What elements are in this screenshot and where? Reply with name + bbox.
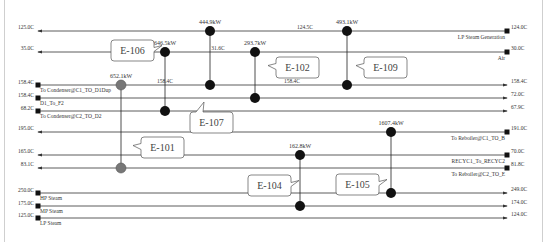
inlet-temp: 158.4C bbox=[18, 92, 34, 98]
outlet-temp: 125.0C bbox=[18, 24, 34, 30]
stream-source-marker bbox=[505, 29, 510, 34]
exchanger-duty: 293.7kW bbox=[244, 40, 267, 46]
exchanger-node-cold[interactable] bbox=[116, 163, 126, 173]
stream-name: RECYC1_To_RECYC2 bbox=[452, 158, 506, 164]
stream-s1[interactable]: 124.0C125.0CLP Steam Generation124.5C bbox=[18, 24, 527, 40]
stream-s11[interactable]: 125.0C124.0CLP Steam bbox=[18, 211, 527, 226]
inlet-temp: 250.0C bbox=[18, 187, 34, 193]
exchanger-node-hot[interactable] bbox=[160, 47, 170, 57]
stream-name: D1_To_F2 bbox=[40, 100, 64, 106]
exchanger-e-101[interactable]: 652.1kW bbox=[110, 73, 133, 173]
callout-e-109[interactable]: E-109 bbox=[356, 57, 407, 78]
exchanger-duty: 646.5kW bbox=[154, 40, 177, 46]
exchanger-node-hot[interactable] bbox=[295, 150, 305, 160]
stream-name: To Condenser@C1_TO_D1Dup bbox=[40, 87, 111, 93]
exchanger-node-cold[interactable] bbox=[295, 201, 305, 211]
callout-e-101[interactable]: E-101 bbox=[133, 137, 184, 158]
stream-name: To Reboiler@C1_TO_B bbox=[451, 135, 505, 141]
exchanger-duty: 493.1kW bbox=[336, 19, 359, 25]
callout-e-102[interactable]: E-102 bbox=[268, 57, 319, 78]
exchanger-duty: 652.1kW bbox=[110, 73, 133, 79]
stream-source-marker bbox=[505, 50, 510, 55]
stream-s7[interactable]: 70.0C165.0CRECYC1_To_RECYC2 bbox=[18, 148, 525, 164]
stream-name: LP Steam bbox=[40, 220, 62, 226]
callout-e-104[interactable]: E-104 bbox=[248, 175, 299, 196]
outlet-temp: 72.0C bbox=[511, 91, 525, 97]
exchanger-duty: 162.8kW bbox=[289, 143, 312, 149]
inlet-temp: 125.0C bbox=[18, 212, 34, 218]
exchanger-e-104[interactable]: 162.8kW bbox=[289, 143, 312, 211]
exchanger-e-102[interactable]: 293.7kW bbox=[244, 40, 267, 103]
callout-label: E-104 bbox=[257, 180, 281, 191]
stream-name: Air bbox=[498, 55, 506, 61]
outlet-temp: 249.0C bbox=[511, 186, 527, 192]
exchanger-node-cold[interactable] bbox=[250, 93, 260, 103]
callout-label: E-102 bbox=[285, 62, 309, 73]
stream-source-marker bbox=[505, 166, 510, 171]
stream-s4[interactable]: 158.4C72.0CD1_To_F2 bbox=[18, 91, 525, 106]
callout-e-106[interactable]: E-106 bbox=[111, 40, 162, 61]
callout-e-105[interactable]: E-105 bbox=[336, 174, 387, 195]
exchanger-node-hot[interactable] bbox=[250, 47, 260, 57]
inlet-temp: 191.0C bbox=[511, 125, 527, 131]
stream-s2[interactable]: 30.0C35.0CAir31.6C bbox=[21, 45, 525, 61]
outlet-temp: 195.0C bbox=[18, 125, 34, 131]
intermediate-temp: 158.4C bbox=[284, 78, 300, 84]
callout-label: E-101 bbox=[150, 142, 174, 153]
stream-s10[interactable]: 175.0C174.0CMP Steam bbox=[18, 199, 527, 214]
exchanger-e-103[interactable]: 444.9kW bbox=[199, 19, 222, 90]
exchanger-e-109[interactable]: 493.1kW bbox=[336, 19, 359, 90]
stream-name: MP Steam bbox=[40, 208, 64, 214]
exchanger-node-hot[interactable] bbox=[386, 127, 396, 137]
outlet-temp: 67.9C bbox=[511, 104, 525, 110]
inlet-temp: 68.2C bbox=[21, 105, 35, 111]
exchanger-node-cold[interactable] bbox=[342, 80, 352, 90]
stream-s5[interactable]: 68.2C67.9CTo Condenser@C2_TO_D2 bbox=[21, 104, 525, 119]
stream-name: HP Steam bbox=[40, 195, 63, 201]
outlet-temp: 35.0C bbox=[21, 45, 35, 51]
exchanger-node-hot[interactable] bbox=[116, 80, 126, 90]
exchanger-node-cold[interactable] bbox=[386, 188, 396, 198]
inlet-temp: 81.8C bbox=[511, 161, 525, 167]
exchanger-node-hot[interactable] bbox=[342, 26, 352, 36]
inlet-temp: 124.0C bbox=[511, 24, 527, 30]
outlet-temp: 174.0C bbox=[511, 199, 527, 205]
heat-exchanger-network-diagram: 124.0C125.0CLP Steam Generation124.5C30.… bbox=[0, 0, 545, 242]
inlet-temp: 158.4C bbox=[18, 79, 34, 85]
callout-label: E-106 bbox=[120, 45, 144, 56]
callout-label: E-105 bbox=[345, 179, 369, 190]
exchanger-node-cold[interactable] bbox=[205, 80, 215, 90]
stream-source-marker bbox=[505, 153, 510, 158]
stream-name: To Reboiler@C2_TO_E bbox=[451, 171, 505, 177]
intermediate-temp: 124.5C bbox=[297, 24, 313, 30]
inlet-temp: 70.0C bbox=[511, 148, 525, 154]
stream-name: LP Steam Generation bbox=[458, 34, 505, 40]
stream-s8[interactable]: 81.8C83.1CTo Reboiler@C2_TO_E bbox=[21, 161, 525, 177]
outlet-temp: 158.4C bbox=[511, 78, 527, 84]
stream-s6[interactable]: 191.0C195.0CTo Reboiler@C1_TO_B bbox=[18, 125, 527, 141]
outlet-temp: 165.0C bbox=[18, 148, 34, 154]
exchanger-node-hot[interactable] bbox=[205, 26, 215, 36]
inlet-temp: 30.0C bbox=[511, 45, 525, 51]
outlet-temp: 83.1C bbox=[21, 161, 35, 167]
exchanger-duty: 444.9kW bbox=[199, 19, 222, 25]
intermediate-temp: 31.6C bbox=[211, 45, 225, 51]
stream-name: To Condenser@C2_TO_D2 bbox=[40, 113, 102, 119]
callout-label: E-107 bbox=[199, 117, 223, 128]
stream-s3[interactable]: 158.4C158.4CTo Condenser@C1_TO_D1Dup158.… bbox=[18, 78, 527, 93]
callout-label: E-109 bbox=[373, 62, 397, 73]
outlet-temp: 124.0C bbox=[511, 211, 527, 217]
callout-e-107[interactable]: E-107 bbox=[190, 102, 233, 133]
exchanger-node-cold[interactable] bbox=[160, 106, 170, 116]
inlet-temp: 175.0C bbox=[18, 200, 34, 206]
exchanger-duty: 1607.4kW bbox=[378, 120, 404, 126]
stream-source-marker bbox=[505, 130, 510, 135]
